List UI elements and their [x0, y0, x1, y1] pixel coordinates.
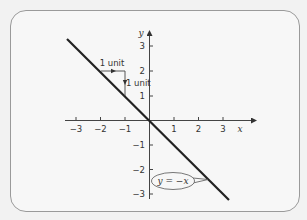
- x-tick-label: 3: [220, 124, 225, 134]
- x-axis-label: x: [237, 124, 242, 134]
- line-graph: −3 −2 −1 1 2 3 x 3 2 1 −1 −2 −3 y 1 unit: [0, 0, 307, 220]
- y-axis-label: y: [137, 28, 144, 38]
- y-tick-label: 2: [140, 66, 145, 76]
- y-tick-label: −2: [132, 165, 145, 175]
- run-label: 1 unit: [100, 58, 125, 68]
- y-tick-label: 1: [140, 91, 145, 101]
- equation-callout: y = −x: [152, 173, 209, 190]
- x-tick-label: −2: [94, 124, 107, 134]
- equation-label: y = −x: [157, 176, 189, 186]
- line-y-equals-neg-x: [67, 39, 229, 200]
- x-tick-label: −3: [70, 124, 83, 134]
- arrow-right-icon: [111, 69, 116, 73]
- rise-label: 1 unit: [126, 78, 151, 88]
- y-tick-label: 3: [140, 41, 145, 51]
- x-tick-label: 2: [196, 124, 201, 134]
- y-tick-label: −3: [132, 189, 145, 199]
- y-tick-label: −1: [132, 140, 145, 150]
- x-tick-label: −1: [119, 124, 132, 134]
- x-tick-label: 1: [171, 124, 176, 134]
